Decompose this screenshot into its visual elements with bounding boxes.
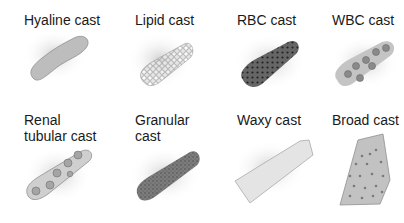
broad-cast-shape (340, 134, 390, 205)
rbc-cast-shape (234, 34, 306, 90)
wbc-cast-shape (331, 36, 399, 88)
hyaline-cast-shape (23, 29, 88, 81)
granular-cast-shape (129, 147, 201, 203)
label-lipid-cast: Lipid cast (135, 12, 194, 28)
renal-tubular-cast-shape (24, 147, 92, 203)
label-granular-cast: Granular cast (135, 112, 189, 144)
waxy-cast-shape (234, 140, 313, 203)
label-waxy-cast: Waxy cast (237, 112, 301, 128)
label-rbc-cast: RBC cast (237, 12, 296, 28)
label-broad-cast: Broad cast (332, 112, 399, 128)
label-hyaline-cast: Hyaline cast (24, 12, 100, 28)
lipid-cast-shape (128, 32, 193, 88)
label-renal-tubular-cast: Renal tubular cast (24, 112, 96, 144)
label-wbc-cast: WBC cast (332, 12, 394, 28)
